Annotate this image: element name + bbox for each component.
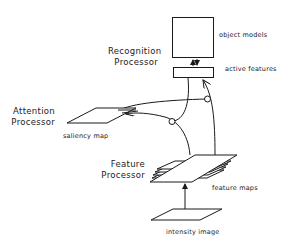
gate-circle-left [169, 119, 175, 125]
active-features-bar [174, 68, 214, 78]
saliency-map-label: saliency map [63, 133, 108, 140]
feature-processor-label-line2: Processor [100, 171, 145, 180]
object-models-label: object models [219, 32, 267, 39]
feature-to-saliency-arrow [126, 113, 190, 155]
attention-processor-label-line1: Attention [10, 107, 55, 116]
recognition-processor-label-line1: Recognition [108, 47, 158, 56]
bidirectional-arrows [193, 59, 197, 66]
attention-processor-label-line2: Processor [10, 118, 55, 127]
feature-to-active-arrow [203, 80, 215, 155]
feature-processor-label-line1: Feature [100, 160, 145, 169]
feature-maps-stack [150, 155, 237, 182]
intensity-image-label: intensity image [166, 229, 220, 236]
active-features-label: active features [225, 66, 277, 73]
intensity-image-plane [151, 209, 222, 220]
gate-circle-right [205, 96, 211, 102]
architecture-diagram: object models active features Recognitio… [0, 0, 293, 252]
recognition-processor-label-line2: Processor [108, 58, 158, 67]
object-models-box [173, 18, 214, 58]
feature-maps-label: feature maps [212, 185, 258, 192]
